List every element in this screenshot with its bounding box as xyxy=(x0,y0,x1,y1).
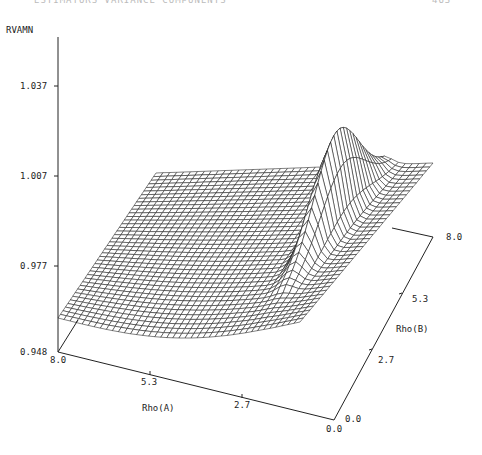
y-tick-label: 2.7 xyxy=(378,355,394,365)
rho-a-axis xyxy=(58,352,334,420)
y-axis-title: Rho(B) xyxy=(396,324,429,334)
y-tick-label: 0.0 xyxy=(345,414,361,424)
z-axis-title: RVAMN xyxy=(6,25,33,35)
z-tick-label: 1.037 xyxy=(20,81,47,91)
y-tick-label: 8.0 xyxy=(446,232,462,242)
x-tick-label: 5.3 xyxy=(141,377,157,387)
x-tick-label: 8.0 xyxy=(50,355,66,365)
y-tick-label: 5.3 xyxy=(412,294,428,304)
x-tick-label: 2.7 xyxy=(234,400,250,410)
surface-plot xyxy=(0,0,482,455)
z-tick-label: 1.007 xyxy=(20,171,47,181)
z-tick-label: 0.977 xyxy=(20,261,47,271)
z-tick-label: 0.948 xyxy=(20,347,47,357)
front-edge xyxy=(58,320,78,352)
x-axis-title: Rho(A) xyxy=(142,403,175,413)
x-tick-label: 0.0 xyxy=(326,424,342,434)
back-edge xyxy=(392,228,433,237)
wireframe-surface xyxy=(58,127,433,338)
